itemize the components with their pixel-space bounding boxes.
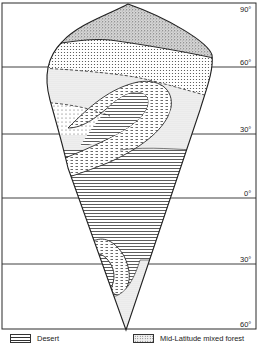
lat-label-30n: 30° (240, 125, 251, 134)
legend-forest-label: Mid-Latitude mixed forest (160, 334, 244, 343)
lat-label-0: 0° (244, 189, 251, 198)
forest-swatch-icon (133, 334, 154, 343)
legend-desert-label: Desert (37, 334, 59, 343)
legend-desert: Desert (10, 334, 59, 343)
biome-diagram (0, 0, 262, 348)
lat-label-60n: 60° (240, 58, 251, 67)
desert-swatch-icon (10, 334, 31, 343)
legend-forest: Mid-Latitude mixed forest (133, 334, 244, 343)
lat-label-90n: 90° (240, 5, 251, 14)
lat-label-30s: 30° (240, 255, 251, 264)
lat-label-60s: 60° (240, 320, 251, 329)
continent-fills (0, 0, 262, 348)
